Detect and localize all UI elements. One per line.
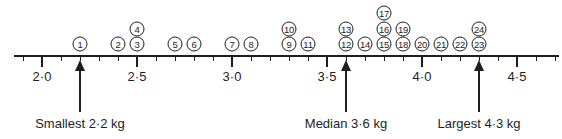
- data-point-circle: 14: [358, 37, 373, 52]
- major-tick: [326, 56, 328, 67]
- tick-label: 2·0: [33, 69, 52, 84]
- minor-tick: [460, 56, 461, 61]
- tick-label: 4·5: [508, 69, 527, 84]
- major-tick: [421, 56, 423, 67]
- data-point-circle: 12: [339, 37, 354, 52]
- arrow-shaft: [345, 68, 347, 112]
- data-point-circle: 2: [111, 37, 126, 52]
- minor-tick: [308, 56, 309, 61]
- minor-tick: [118, 56, 119, 61]
- dot-plot-chart: 2·02·53·03·54·04·5 123456789101112131415…: [0, 0, 562, 139]
- minor-tick: [23, 56, 24, 61]
- data-point-circle: 22: [453, 37, 468, 52]
- data-point-circle: 1: [73, 37, 88, 52]
- minor-tick: [365, 56, 366, 61]
- data-point-circle: 18: [396, 37, 411, 52]
- data-point-circle: 8: [244, 37, 259, 52]
- minor-tick: [270, 56, 271, 61]
- data-point-circle: 19: [396, 21, 411, 36]
- tick-label: 3·0: [223, 69, 242, 84]
- data-point-circle: 20: [415, 37, 430, 52]
- tick-label: 3·5: [318, 69, 337, 84]
- minor-tick: [61, 56, 62, 61]
- annotation-label: Median 3·6 kg: [305, 116, 387, 131]
- data-point-circle: 4: [130, 21, 145, 36]
- data-point-circle: 6: [187, 37, 202, 52]
- data-point-circle: 3: [130, 37, 145, 52]
- tick-label: 2·5: [128, 69, 147, 84]
- major-tick: [231, 56, 233, 67]
- minor-tick: [175, 56, 176, 61]
- major-tick: [136, 56, 138, 67]
- minor-tick: [194, 56, 195, 61]
- major-tick: [41, 56, 43, 67]
- minor-tick: [213, 56, 214, 61]
- tick-label: 4·0: [413, 69, 432, 84]
- annotation-label: Largest 4·3 kg: [437, 116, 520, 131]
- minor-tick: [536, 56, 537, 61]
- data-point-circle: 21: [434, 37, 449, 52]
- data-point-circle: 7: [225, 37, 240, 52]
- minor-tick: [384, 56, 385, 61]
- data-point-circle: 5: [168, 37, 183, 52]
- minor-tick: [555, 56, 556, 61]
- data-point-circle: 15: [377, 37, 392, 52]
- minor-tick: [251, 56, 252, 61]
- minor-tick: [156, 56, 157, 61]
- data-point-circle: 16: [377, 21, 392, 36]
- data-point-circle: 17: [377, 6, 392, 21]
- data-point-circle: 23: [472, 37, 487, 52]
- annotation-label: Smallest 2·2 kg: [35, 116, 125, 131]
- data-point-circle: 10: [282, 21, 297, 36]
- minor-tick: [403, 56, 404, 61]
- major-tick: [516, 56, 518, 67]
- minor-tick: [289, 56, 290, 61]
- data-point-circle: 13: [339, 21, 354, 36]
- x-axis-line: [14, 55, 559, 57]
- arrow-shaft: [478, 68, 480, 112]
- arrow-shaft: [79, 68, 81, 112]
- data-point-circle: 11: [301, 37, 316, 52]
- minor-tick: [441, 56, 442, 61]
- data-point-circle: 9: [282, 37, 297, 52]
- data-point-circle: 24: [472, 21, 487, 36]
- minor-tick: [99, 56, 100, 61]
- minor-tick: [498, 56, 499, 61]
